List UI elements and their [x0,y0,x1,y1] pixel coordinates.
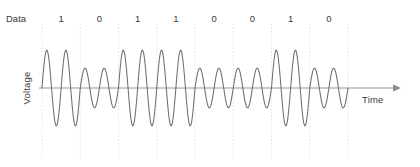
voltage-axis-label: Voltage [21,71,32,104]
bit-label: 0 [250,13,255,24]
bit-label: 1 [58,13,63,24]
time-axis-label: Time [362,94,384,105]
time-axis-arrow-icon [393,84,401,91]
bit-label: 1 [288,13,293,24]
data-row-label: Data [6,13,27,24]
bit-label: 1 [173,13,178,24]
ask-modulation-figure: Data 10110010 Voltage Time [0,0,420,167]
waveform-plot: Data 10110010 Voltage Time [0,0,420,167]
bit-labels-group: 10110010 [58,13,331,24]
bit-label: 1 [135,13,140,24]
bit-label: 0 [211,13,216,24]
axis-group [39,84,401,91]
bit-label: 0 [326,13,331,24]
bit-label: 0 [97,13,102,24]
